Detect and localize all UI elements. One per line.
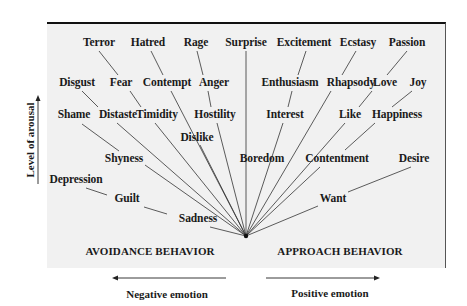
negative-arrowhead-icon (112, 276, 118, 281)
emotion-label-love: Love (373, 77, 397, 89)
emotion-label-boredom: Boredom (240, 153, 284, 165)
emotion-label-timidity: Timidity (136, 109, 178, 121)
emotion-label-rhapsody: Rhapsody (327, 77, 375, 89)
positive-emotion-label: Positive emotion (291, 287, 368, 299)
negative-emotion-label: Negative emotion (126, 288, 208, 300)
emotion-label-like: Like (339, 109, 361, 121)
emotion-label-fear: Fear (110, 77, 133, 89)
emotion-label-shame: Shame (58, 109, 91, 121)
y-axis-label: Level of arousal (24, 103, 36, 178)
emotion-label-rage: Rage (184, 37, 209, 49)
emotion-label-sadness: Sadness (179, 213, 217, 225)
emotion-label-anger: Anger (199, 77, 229, 89)
emotion-label-disgust: Disgust (59, 77, 95, 89)
emotion-label-enthusiasm: Enthusiasm (261, 77, 318, 89)
emotion-label-guilt: Guilt (114, 193, 139, 205)
emotion-label-contentment: Contentment (305, 153, 368, 165)
y-axis-arrowhead-icon (36, 95, 41, 101)
emotion-label-interest: Interest (266, 109, 303, 121)
emotion-label-happiness: Happiness (372, 109, 422, 121)
emotion-label-distaste: Distaste (99, 109, 137, 121)
emotion-label-ecstasy: Ecstasy (340, 37, 376, 49)
emotion-label-desire: Desire (399, 153, 429, 165)
emotion-label-dislike: Dislike (180, 132, 213, 144)
emotion-label-contempt: Contempt (143, 77, 191, 89)
emotion-label-want: Want (320, 193, 346, 205)
emotion-label-terror: Terror (83, 37, 115, 49)
approach-behavior-label: APPROACH BEHAVIOR (277, 245, 402, 257)
diagram-box (47, 22, 446, 268)
positive-arrowhead-icon (374, 276, 380, 281)
emotion-label-surprise: Surprise (225, 37, 266, 49)
emotion-label-passion: Passion (389, 37, 425, 49)
avoidance-behavior-label: AVOIDANCE BEHAVIOR (85, 245, 214, 257)
emotion-label-hatred: Hatred (131, 37, 165, 49)
emotion-label-joy: Joy (410, 77, 427, 89)
emotion-label-shyness: Shyness (105, 153, 143, 165)
emotion-label-hostility: Hostility (194, 109, 235, 121)
emotion-label-excitement: Excitement (277, 37, 332, 49)
emotion-label-depression: Depression (49, 174, 102, 186)
